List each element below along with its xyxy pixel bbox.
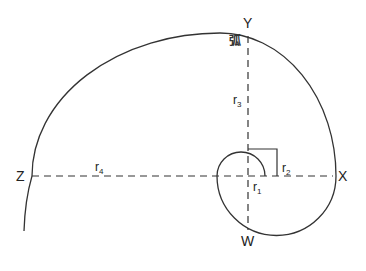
point-label-z: Z: [16, 168, 25, 184]
radius-label-r4: r4: [95, 160, 104, 176]
spiral-diagram: Y X Z W 弧 r3 r4 r2 r1: [0, 0, 366, 271]
point-label-w: W: [241, 233, 255, 249]
radius-label-r3: r3: [233, 93, 242, 109]
radius-label-r1: r1: [253, 180, 262, 196]
point-label-y: Y: [243, 15, 253, 31]
point-label-x: X: [338, 168, 348, 184]
right-angle-marker: [248, 149, 277, 176]
radius-label-r2: r2: [282, 161, 291, 177]
arc-label: 弧: [229, 33, 241, 48]
spiral-curve: [24, 33, 336, 236]
